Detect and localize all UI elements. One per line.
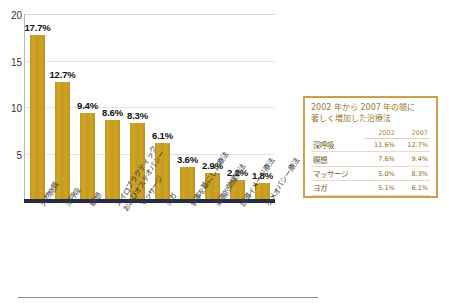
cell-2007: 8.3%	[397, 166, 430, 180]
bottom-divider	[18, 297, 318, 298]
bar-slot: 9.4%	[80, 14, 95, 200]
cell-2002: 11.6%	[364, 138, 397, 152]
table-row: 瞑想7.6%9.4%	[311, 152, 430, 166]
bar-slot: 6.1%	[155, 14, 170, 200]
bar-slot: 8.6%	[105, 14, 120, 200]
comparison-table: 2002 2007 深呼吸11.6%12.7%瞑想7.6%9.4%マッサージ5.…	[311, 129, 430, 196]
bar-slot: 3.6%	[180, 14, 195, 200]
table-row: ヨガ5.1%6.1%	[311, 181, 430, 195]
y-axis-tick-10: 10	[11, 103, 22, 114]
y-axis-tick-15: 15	[11, 56, 22, 67]
table-row: 深呼吸11.6%12.7%	[311, 138, 430, 152]
bar-value-label: 6.1%	[152, 130, 173, 141]
bar-value-label: 8.6%	[102, 107, 123, 118]
row-label: マッサージ	[311, 166, 364, 180]
comparison-table-body: 深呼吸11.6%12.7%瞑想7.6%9.4%マッサージ5.0%8.3%ヨガ5.…	[311, 138, 430, 195]
y-axis-tick-20: 20	[11, 10, 22, 21]
bar	[80, 113, 95, 200]
bar-slot: 17.7%	[30, 14, 45, 200]
inset-comparison-table: 2002 年から 2007 年の間に 著しく増加した治療法 2002 2007 …	[303, 96, 438, 198]
table-row: マッサージ5.0%8.3%	[311, 166, 430, 180]
cell-2002: 7.6%	[364, 152, 397, 166]
inset-table-title: 2002 年から 2007 年の間に 著しく増加した治療法	[311, 103, 430, 125]
bar-value-label: 8.3%	[127, 110, 148, 121]
row-label: 深呼吸	[311, 138, 364, 152]
bar-value-label: 12.7%	[50, 69, 76, 80]
inset-title-line-2: 著しく増加した治療法	[311, 114, 430, 125]
cell-2002: 5.0%	[364, 166, 397, 180]
col-header-2007: 2007	[397, 129, 430, 139]
y-axis-tick-5: 5	[16, 149, 22, 160]
cell-2007: 6.1%	[397, 181, 430, 195]
cell-2007: 12.7%	[397, 138, 430, 152]
bar-value-label: 17.7%	[25, 22, 51, 33]
inset-title-line-1: 2002 年から 2007 年の間に	[311, 103, 430, 114]
cell-2007: 9.4%	[397, 152, 430, 166]
bar	[30, 35, 45, 200]
comparison-table-head: 2002 2007	[311, 129, 430, 139]
cell-2002: 5.1%	[364, 181, 397, 195]
row-label: ヨガ	[311, 181, 364, 195]
col-header-label	[311, 129, 364, 139]
bar-value-label: 9.4%	[77, 100, 98, 111]
row-label: 瞑想	[311, 152, 364, 166]
bar-slot: 12.7%	[55, 14, 70, 200]
bar-value-label: 3.6%	[177, 154, 198, 165]
col-header-2002: 2002	[364, 129, 397, 139]
table-header-row: 2002 2007	[311, 129, 430, 139]
bar	[105, 120, 120, 200]
bar-chart-figure: 20 15 10 5 17.7%12.7%9.4%8.6%8.3%6.1%3.6…	[0, 0, 449, 306]
